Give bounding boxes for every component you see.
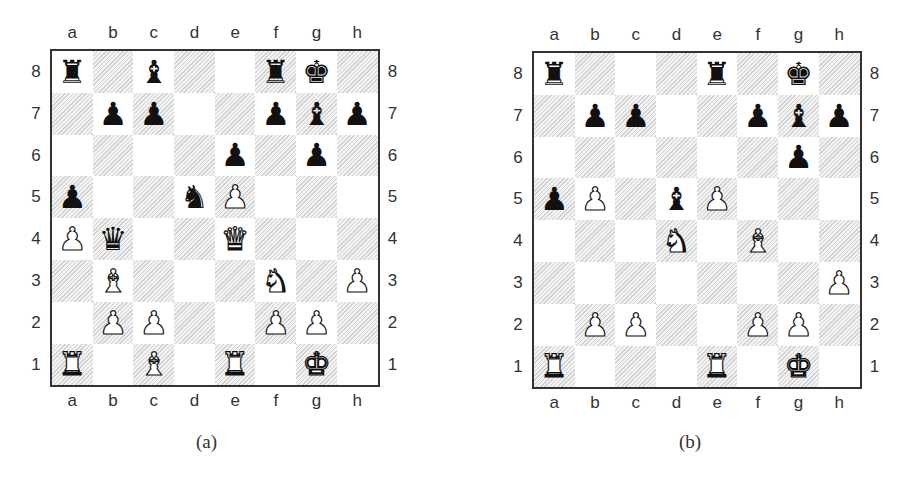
square-d4: ♞ [656,220,697,262]
square-c2: ♟ [133,302,174,344]
square-g6: ♟ [778,137,819,179]
square-g4 [296,218,337,260]
square-b1 [93,344,134,386]
file-label-bottom: g [296,391,337,411]
rank-label-left: 8 [510,64,526,84]
file-label-bottom: d [656,393,697,413]
file-label-top: a [52,23,93,43]
square-b3: ♝ [93,260,134,302]
square-a7 [534,95,575,137]
white-pawn-icon: ♟ [581,309,610,341]
black-pawn-icon: ♟ [343,98,372,130]
rank-label-left: 6 [28,146,44,166]
square-a4: ♟ [52,218,93,260]
square-a4 [534,220,575,262]
rank-label-right: 3 [385,271,401,291]
square-a5: ♟ [534,178,575,220]
square-b5: ♟ [575,178,616,220]
black-rook-icon: ♜ [540,58,569,90]
square-b2: ♟ [93,302,134,344]
rank-label-right: 1 [867,357,883,377]
square-d2 [174,302,215,344]
square-f2: ♟ [255,302,296,344]
black-pawn-icon: ♟ [621,100,650,132]
white-king-icon: ♚ [302,348,331,380]
square-g5 [778,178,819,220]
rank-label-left: 4 [510,231,526,251]
square-e4 [697,220,738,262]
square-f6 [737,137,778,179]
square-h1 [819,346,860,388]
square-a1: ♜ [52,344,93,386]
square-h2 [337,302,378,344]
black-pawn-icon: ♟ [58,181,87,213]
square-c2: ♟ [615,304,656,346]
white-rook-icon: ♜ [540,350,569,382]
black-pawn-icon: ♟ [825,100,854,132]
black-bishop-icon: ♝ [139,56,168,88]
white-queen-icon: ♛ [221,223,250,255]
square-g7: ♝ [778,95,819,137]
file-label-bottom: b [575,393,616,413]
square-a6 [52,135,93,177]
square-b7: ♟ [93,93,134,135]
square-f3: ♞ [255,260,296,302]
white-bishop-icon: ♝ [139,348,168,380]
black-pawn-icon: ♟ [139,98,168,130]
square-h6 [819,137,860,179]
black-knight-icon: ♞ [180,181,209,213]
black-rook-icon: ♜ [58,56,87,88]
file-label-bottom: h [337,391,378,411]
square-b8 [93,51,134,93]
square-h1 [337,344,378,386]
white-pawn-icon: ♟ [221,181,250,213]
rank-label-right: 8 [867,64,883,84]
square-g1: ♚ [296,344,337,386]
rank-label-right: 7 [867,106,883,126]
square-f1 [737,346,778,388]
black-queen-icon: ♛ [99,223,128,255]
square-e2 [697,304,738,346]
square-f4: ♝ [737,220,778,262]
square-b2: ♟ [575,304,616,346]
square-f7: ♟ [255,93,296,135]
white-pawn-icon: ♟ [743,309,772,341]
square-b5 [93,176,134,218]
square-g7: ♝ [296,93,337,135]
black-pawn-icon: ♟ [743,100,772,132]
square-a6 [534,137,575,179]
square-b4 [575,220,616,262]
white-rook-icon: ♜ [221,348,250,380]
rank-label-right: 2 [867,315,883,335]
chess-diagram-a: ♜♝♜♚♟♟♟♝♟♟♟♟♞♟♟♛♛♝♞♟♟♟♟♟♜♝♜♚aabbccddeeff… [0,0,420,420]
square-f6 [255,135,296,177]
square-d5: ♞ [174,176,215,218]
chessboard: ♜♜♚♟♟♟♝♟♟♟♟♝♟♞♝♟♟♟♟♟♜♜♚ [532,51,862,389]
white-bishop-icon: ♝ [99,265,128,297]
white-pawn-icon: ♟ [703,183,732,215]
square-g8: ♚ [778,53,819,95]
square-b7: ♟ [575,95,616,137]
square-e6 [697,137,738,179]
square-a5: ♟ [52,176,93,218]
square-d1 [174,344,215,386]
rank-label-left: 3 [510,273,526,293]
square-b6 [575,137,616,179]
white-pawn-icon: ♟ [302,307,331,339]
square-c4 [133,218,174,260]
square-c8 [615,53,656,95]
file-label-top: c [133,23,174,43]
square-c7: ♟ [615,95,656,137]
square-a2 [534,304,575,346]
square-g2: ♟ [778,304,819,346]
file-label-top: g [778,25,819,45]
white-rook-icon: ♜ [703,350,732,382]
square-h7: ♟ [819,95,860,137]
square-b1 [575,346,616,388]
white-pawn-icon: ♟ [621,309,650,341]
file-label-top: h [337,23,378,43]
square-g2: ♟ [296,302,337,344]
black-bishop-icon: ♝ [784,100,813,132]
square-g5 [296,176,337,218]
rank-label-left: 5 [28,187,44,207]
